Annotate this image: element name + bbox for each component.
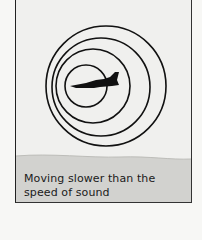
jet-aircraft-icon (70, 72, 119, 88)
wavefront-circle-2 (52, 38, 150, 136)
caption-line-1: Moving slower than the (24, 172, 189, 186)
caption-line-2: speed of sound (24, 186, 189, 200)
diagram-caption: Moving slower than the speed of sound (24, 172, 189, 200)
